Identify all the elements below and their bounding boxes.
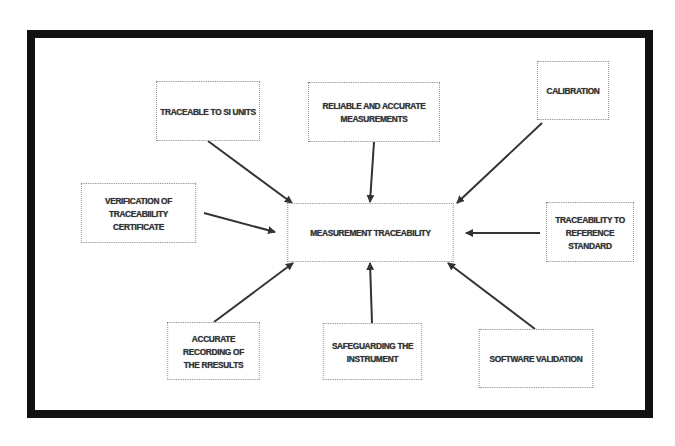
arrow-reliable <box>370 142 374 202</box>
node-label: TRACEABILITY TO REFERENCE STANDARD <box>555 213 625 252</box>
arrow-recording <box>214 263 293 322</box>
node-reliable-accurate-measurements: RELIABLE AND ACCURATE MEASUREMENTS <box>308 82 440 142</box>
arrow-calibration <box>457 123 542 203</box>
arrow-safeguarding <box>370 263 372 323</box>
node-label: VERIFICATION OF TRACEABIILITY CERTIFICAT… <box>105 194 172 233</box>
node-label: CALIBRATION <box>546 84 599 97</box>
node-label: SOFTWARE VALIDATION <box>490 352 583 365</box>
arrow-verification <box>204 213 275 232</box>
node-accurate-recording: ACCURATE RECORDING OF THE RRESULTS <box>167 322 259 380</box>
node-software-validation: SOFTWARE VALIDATION <box>479 329 593 388</box>
node-verification-certificate: VERIFICATION OF TRACEABIILITY CERTIFICAT… <box>81 183 196 243</box>
node-traceability-reference-standard: TRACEABILITY TO REFERENCE STANDARD <box>546 202 634 262</box>
node-label: TRACEABLE TO SI UNITS <box>160 105 256 118</box>
node-label: RELIABLE AND ACCURATE MEASUREMENTS <box>323 99 426 125</box>
arrow-software <box>448 263 535 329</box>
center-node-label: MEASUREMENT TRACEABILITY <box>310 226 431 239</box>
node-calibration: CALIBRATION <box>537 61 609 120</box>
center-node: MEASUREMENT TRACEABILITY <box>287 203 453 262</box>
node-label: SAFEGUARDING THE INSTRUMENT <box>332 339 413 365</box>
arrow-si-units <box>208 141 292 203</box>
node-label: ACCURATE RECORDING OF THE RRESULTS <box>183 332 244 371</box>
node-safeguarding-instrument: SAFEGUARDING THE INSTRUMENT <box>323 323 422 380</box>
node-traceable-to-si-units: TRACEABLE TO SI UNITS <box>156 81 260 141</box>
